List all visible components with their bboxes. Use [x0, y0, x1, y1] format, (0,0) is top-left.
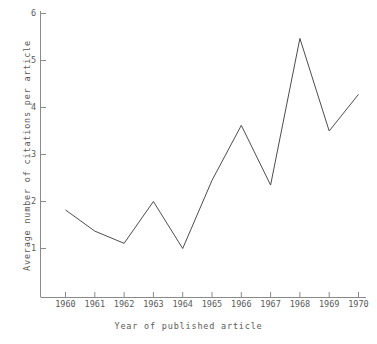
y-tick-label-6: 6 — [20, 9, 36, 18]
line-chart-figure: 6 5 4 3 2 1 1960 1961 1962 1963 1964 196… — [0, 0, 377, 344]
x-tick-label-1970: 1970 — [342, 300, 376, 309]
plot-area — [0, 0, 377, 344]
y-axis-ticks — [41, 14, 47, 249]
x-axis-label: Year of published article — [0, 321, 377, 331]
y-axis-label: Average number of citations per article — [22, 40, 32, 271]
data-series-line — [66, 38, 359, 248]
y-axis-label-container: Average number of citations per article — [15, 36, 34, 276]
x-axis-ticks — [66, 292, 359, 298]
